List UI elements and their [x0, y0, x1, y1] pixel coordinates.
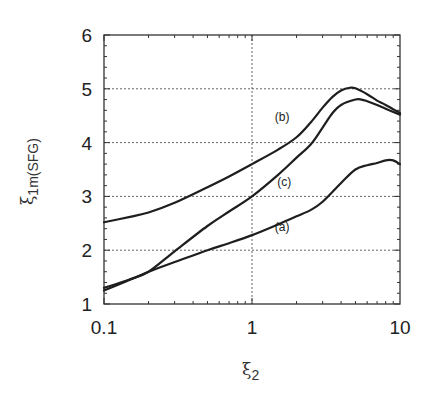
- y-tick-label: 6: [81, 25, 92, 46]
- curve-label: (b): [275, 110, 290, 124]
- x-tick-labels: 0.1110: [91, 317, 411, 338]
- line-chart: (b)(c)(a) 0.1110 123456 ξ1m(SFG) ξ2: [0, 0, 433, 412]
- y-tick-label: 3: [81, 186, 92, 207]
- curve-label: (a): [275, 220, 290, 234]
- x-tick-label: 10: [389, 317, 410, 338]
- y-axis-label: ξ1m(SFG): [17, 138, 41, 205]
- curve-label: (c): [277, 175, 291, 189]
- y-tick-label: 1: [81, 294, 92, 315]
- y-tick-label: 2: [81, 240, 92, 261]
- x-tick-label: 0.1: [91, 317, 117, 338]
- y-tick-label: 4: [81, 133, 92, 154]
- y-tick-labels: 123456: [81, 25, 92, 315]
- x-tick-label: 1: [247, 317, 258, 338]
- x-axis-label: ξ2: [242, 359, 259, 383]
- y-tick-label: 5: [81, 79, 92, 100]
- curve-labels: (b)(c)(a): [275, 110, 291, 234]
